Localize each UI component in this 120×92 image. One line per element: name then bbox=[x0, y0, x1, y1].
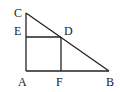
rectangle-aedf bbox=[26, 37, 61, 71]
segment-cb bbox=[26, 13, 109, 71]
label-b: B bbox=[106, 75, 114, 89]
label-a: A bbox=[18, 75, 27, 89]
label-f: F bbox=[56, 75, 63, 89]
label-c: C bbox=[14, 6, 22, 20]
triangle-abc bbox=[26, 13, 109, 71]
label-e: E bbox=[14, 24, 21, 38]
label-d: D bbox=[64, 24, 73, 38]
geometry-diagram: C E D A F B bbox=[0, 0, 120, 92]
